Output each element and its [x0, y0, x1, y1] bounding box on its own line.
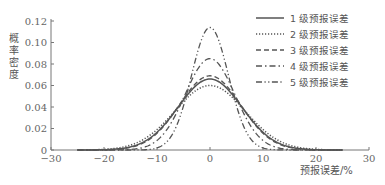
y-tick-label: 0.02	[25, 123, 47, 134]
curve-level-1	[78, 79, 343, 150]
y-tick-label: 0.04	[25, 102, 47, 113]
y-tick-label: 0.08	[25, 59, 47, 70]
x-tick-label: −10	[146, 153, 167, 164]
y-axis-title: 概率密度	[9, 32, 19, 80]
legend: 1 级预报误差2 级预报误差3 级预报误差4 级预报误差5 级预报误差	[256, 13, 349, 88]
y-tick-label: 0.12	[25, 16, 47, 27]
x-tick-label: −20	[93, 153, 114, 164]
x-tick-label: 20	[310, 153, 323, 164]
y-tick-label: 0.06	[25, 80, 47, 91]
legend-label-level-2: 2 级预报误差	[290, 29, 349, 40]
probability-density-chart: 00.020.040.060.080.100.12−30−20−10010203…	[0, 0, 385, 185]
legend-label-level-5: 5 级预报误差	[290, 77, 349, 88]
legend-label-level-4: 4 级预报误差	[290, 61, 349, 72]
legend-label-level-1: 1 级预报误差	[290, 13, 349, 24]
legend-label-level-3: 3 级预报误差	[290, 45, 349, 56]
curve-level-2	[78, 86, 343, 150]
x-tick-label: −30	[40, 153, 61, 164]
x-tick-label: 10	[257, 153, 270, 164]
y-tick-label: 0.10	[25, 37, 47, 48]
x-axis-title: 预报误差/%	[300, 164, 353, 176]
x-tick-label: 30	[363, 153, 376, 164]
curve-level-4	[78, 59, 343, 150]
x-tick-label: 0	[207, 153, 213, 164]
